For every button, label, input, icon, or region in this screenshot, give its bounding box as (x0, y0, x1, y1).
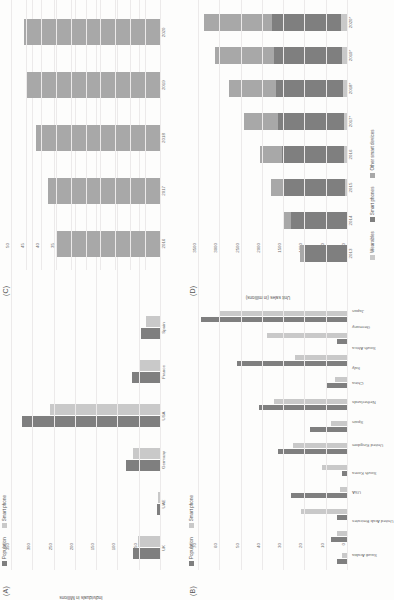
gridline (262, 0, 263, 270)
axis-category-label: 2019* (348, 39, 353, 72)
axis-category-label: United Kingdom (348, 433, 357, 464)
bar (237, 362, 348, 367)
legend-swatch-population (189, 561, 194, 566)
legend-swatch-smart-phones (370, 217, 375, 222)
bar (24, 19, 161, 45)
axis-tick-label: 70 (192, 543, 197, 548)
gridline (304, 0, 305, 270)
bar (291, 494, 348, 499)
bar (278, 450, 348, 455)
bar-segment (215, 47, 274, 64)
bar (293, 444, 348, 449)
panel-c-plot: 50454035302520151050 (12, 6, 161, 270)
legend-swatch-smartphone (189, 523, 194, 528)
bar (138, 537, 161, 548)
bar (132, 373, 161, 384)
gridline (86, 0, 87, 270)
legend-swatch-other-smart-devices (370, 173, 375, 178)
axis-category-label: 2016 (161, 217, 166, 270)
bar (133, 549, 161, 560)
axis-tick-label: 3500 (192, 243, 197, 253)
gridline (41, 0, 42, 270)
gridline (26, 0, 27, 270)
axis-category-label: 2016 (348, 138, 353, 171)
legend-swatch-wearables (370, 255, 375, 260)
bar-group (12, 231, 161, 257)
bar-segment (291, 212, 346, 229)
bar (22, 417, 161, 428)
axis-category-label: 2017* (348, 105, 353, 138)
gridline (241, 0, 242, 270)
gridline (11, 0, 12, 270)
legend-label-other-smart-devices: Other smart devices (370, 129, 375, 170)
axis-category-label: 2015 (348, 171, 353, 204)
bar (27, 72, 161, 98)
bar (327, 384, 348, 389)
gridline (326, 0, 327, 270)
axis-category-label: UAE (161, 482, 166, 526)
axis-category-label: Spain (348, 417, 357, 432)
axis-category-label: 2013 (348, 237, 353, 270)
panel-d-ylabel: Unit sales (in millions) (187, 292, 348, 302)
axis-tick-label: 50 (5, 243, 10, 248)
axis-category-label: UK (161, 526, 166, 570)
gridline (71, 0, 72, 270)
panel-d-xlabels: 20132014201520162017*2018*2019*2020* (348, 6, 370, 270)
axis-category-label: 2020 (161, 6, 166, 59)
bar (267, 334, 348, 339)
axis-category-label: China (348, 378, 357, 393)
legend-label-population: Population (189, 537, 194, 559)
bar-segment (284, 212, 292, 229)
legend-swatch-smartphone (2, 523, 7, 528)
panel-a: (A) Population Smart phone Individuals i… (0, 300, 187, 600)
gridline (198, 0, 199, 270)
bar (141, 329, 161, 340)
legend-item-population: Population (2, 537, 7, 566)
bar-group (12, 72, 161, 98)
axis-category-label: France (161, 350, 166, 394)
axis-category-label: South Africa (348, 339, 357, 363)
bar (331, 538, 348, 543)
bar (301, 510, 348, 515)
legend-label-smart-phones: Smart phones (370, 187, 375, 216)
axis-category-label: Saudi Arabia (348, 545, 357, 570)
axis-category-label: 2020* (348, 6, 353, 39)
bar-group (12, 125, 161, 151)
panel-c: (C) 50454035302520151050 201620172018201… (0, 0, 187, 300)
axis-category-label: 2014 (348, 204, 353, 237)
legend-label-smartphone: Smart phone (2, 495, 7, 521)
gridline (130, 0, 131, 270)
bar (50, 405, 161, 416)
panel-b-legend: Population Smart phone (189, 495, 194, 566)
axis-tick-label: 350 (5, 543, 10, 550)
axis-category-label: Germany (348, 321, 357, 339)
panel-a-xlabels: UKUAEGermanyUSAFranceSpain (161, 306, 183, 570)
panel-b: (B) Population Smart phone 7060504030201… (187, 300, 374, 600)
legend-label-smartphone: Smart phone (189, 495, 194, 521)
bar (146, 317, 161, 328)
legend-item-smart-phones: Smart phones (370, 187, 375, 223)
bar-segment (260, 146, 282, 163)
axis-category-label: USA (161, 394, 166, 438)
legend-label-wearables: Wearables (370, 231, 375, 253)
axis-category-label: Japan (348, 306, 357, 321)
bar-segment (284, 179, 345, 196)
gridline (56, 0, 57, 270)
legend-item-smartphone: Smart phone (189, 495, 194, 528)
legend-item-wearables: Wearables (370, 231, 375, 260)
legend-item-population: Population (189, 537, 194, 566)
gridline (219, 0, 220, 270)
axis-category-label: Germany (161, 438, 166, 482)
axis-category-label: South Korea (348, 464, 357, 488)
bar-segment (229, 80, 276, 97)
axis-category-label: 2017 (161, 164, 166, 217)
axis-category-label: Italy (348, 363, 357, 378)
gridline (100, 0, 101, 270)
bar-segment (276, 80, 343, 97)
legend-item-other-smart-devices: Other smart devices (370, 129, 375, 177)
axis-category-label: 2018 (161, 112, 166, 165)
axis-category-label: Spain (161, 306, 166, 350)
panel-c-xlabels: 20162017201820192020 (161, 6, 183, 270)
bar (36, 125, 161, 151)
